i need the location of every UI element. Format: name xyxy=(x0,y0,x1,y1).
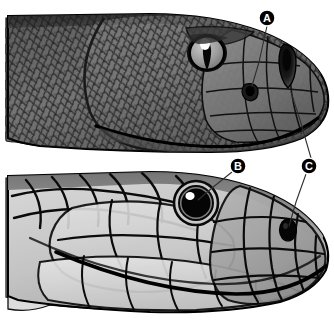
label-b-marker[interactable]: B xyxy=(230,158,246,174)
snake-head-comparison-figure: A B C xyxy=(0,0,334,322)
label-b-text: B xyxy=(234,160,242,172)
colubrid-nostril xyxy=(280,219,297,241)
colubrid-eye xyxy=(174,181,218,225)
illustration-canvas: A B C xyxy=(0,0,334,322)
label-a-marker[interactable]: A xyxy=(259,10,275,26)
label-c-text: C xyxy=(305,160,313,172)
loreal-heat-pit xyxy=(242,84,258,101)
colubrid-eye-highlight xyxy=(185,192,194,200)
label-a-text: A xyxy=(263,12,271,24)
label-c-marker[interactable]: C xyxy=(301,158,317,174)
